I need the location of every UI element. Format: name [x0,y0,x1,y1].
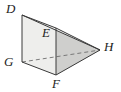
vertex-label-G: G [4,55,13,68]
face-right-EFH [56,28,100,75]
vertex-label-E: E [42,26,50,39]
geometry-figure: D E G F H [0,0,121,92]
face-left-DEFG [22,15,56,75]
wedge-diagram-svg [0,0,121,92]
vertex-label-H: H [104,40,113,53]
vertex-label-F: F [52,77,60,90]
vertex-label-D: D [6,2,15,15]
